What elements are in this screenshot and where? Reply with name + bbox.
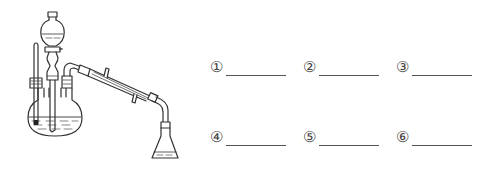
answer-line[interactable] [319, 61, 379, 76]
blank-5: ⑤ [303, 124, 379, 146]
blank-3: ③ [396, 54, 472, 76]
blank-label: ② [303, 58, 316, 76]
blank-label: ⑤ [303, 128, 316, 146]
erlenmeyer-flask [152, 122, 178, 158]
thermometer [30, 43, 42, 125]
blank-label: ① [210, 58, 223, 76]
blank-label: ⑥ [396, 128, 409, 146]
blank-label: ④ [210, 128, 223, 146]
answer-line[interactable] [412, 61, 472, 76]
answer-line[interactable] [319, 131, 379, 146]
answer-line[interactable] [226, 131, 286, 146]
blank-4: ④ [210, 124, 286, 146]
distillation-apparatus-diagram [0, 0, 200, 173]
liebig-condenser [78, 65, 158, 103]
blank-1: ① [210, 54, 286, 76]
answer-line[interactable] [226, 61, 286, 76]
blank-label: ③ [396, 58, 409, 76]
blank-6: ⑥ [396, 124, 472, 146]
separatory-funnel [41, 12, 65, 132]
answer-line[interactable] [412, 131, 472, 146]
blank-2: ② [303, 54, 379, 76]
